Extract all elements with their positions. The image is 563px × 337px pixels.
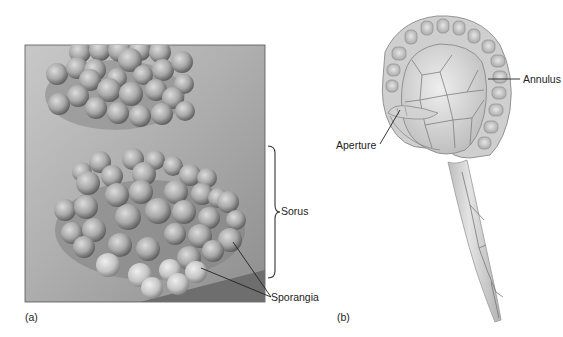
aperture-label: Aperture: [336, 140, 376, 151]
sorus-brace: [268, 146, 280, 278]
sem-photo: [25, 38, 265, 302]
figure-graphics: [0, 0, 563, 337]
sporangium-drawing: [382, 16, 511, 322]
figure: (a) Sorus Sporangia (b) Annulus Aperture: [0, 0, 563, 337]
capsule: [401, 44, 486, 154]
stalk: [448, 160, 501, 322]
sorus-label: Sorus: [281, 206, 308, 217]
sporangia-label: Sporangia: [271, 292, 319, 303]
panel-b-label: (b): [337, 312, 350, 323]
annulus-label: Annulus: [523, 74, 561, 85]
panel-a-label: (a): [25, 312, 38, 323]
